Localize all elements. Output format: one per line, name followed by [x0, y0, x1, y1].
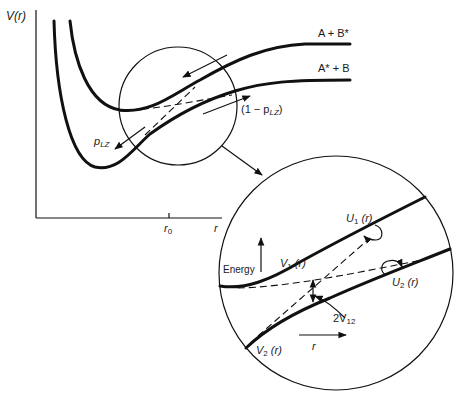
- x-axis-label: r: [214, 222, 219, 234]
- upper-potential-curve: [70, 21, 350, 111]
- u1-label: U1 (r): [346, 212, 373, 226]
- one-minus-p-lz-label: (1 − pLZ): [241, 103, 282, 117]
- zoom-region-circle: [119, 47, 237, 165]
- v2-label: V2 (r): [256, 344, 282, 358]
- energy-label: Energy: [223, 264, 255, 275]
- avoided-crossing-diagram: V(r) r r0 A + B* A* + B pLZ (1 − pLZ) En…: [0, 0, 459, 399]
- u2-label: U2 (r): [392, 276, 419, 290]
- label-a-b-star: A + B*: [318, 27, 350, 39]
- v2-adiabatic-curve: [246, 249, 450, 348]
- y-axis-label: V(r): [6, 9, 26, 23]
- label-a-star-b: A* + B: [318, 62, 350, 74]
- p-lz-arrow: [115, 127, 145, 149]
- gap-label: 2V12: [333, 312, 356, 326]
- zoom-connector-arrow: [222, 146, 262, 175]
- incoming-arrow: [183, 55, 227, 77]
- p-lz-label: pLZ: [93, 135, 111, 149]
- inset-r-label: r: [312, 340, 317, 352]
- v1-label: V1 (r): [280, 257, 306, 271]
- r0-tick-label: r0: [164, 222, 173, 236]
